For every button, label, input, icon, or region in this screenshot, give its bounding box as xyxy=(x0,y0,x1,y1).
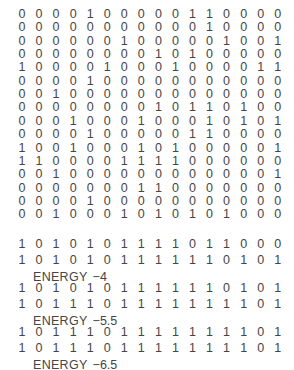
binary-digit: 0 xyxy=(135,75,147,88)
binary-digit: 0 xyxy=(238,182,250,195)
binary-digit: 1 xyxy=(204,128,216,141)
binary-digit: 1 xyxy=(16,342,28,355)
binary-digit: 0 xyxy=(204,155,216,168)
binary-digit: 0 xyxy=(16,75,28,88)
binary-digit: 0 xyxy=(169,168,181,181)
binary-digit: 0 xyxy=(101,155,113,168)
binary-digit: 0 xyxy=(16,182,28,195)
binary-digit: 1 xyxy=(152,182,164,195)
binary-digit: 0 xyxy=(33,61,45,74)
binary-digit: 0 xyxy=(33,195,45,208)
binary-digit: 0 xyxy=(255,75,267,88)
binary-digit: 0 xyxy=(33,8,45,21)
sequence-row-bottom: 1010101111110101 xyxy=(0,254,294,267)
binary-digit: 0 xyxy=(221,75,233,88)
binary-digit: 0 xyxy=(33,342,45,355)
binary-digit: 0 xyxy=(33,142,45,155)
binary-digit: 0 xyxy=(255,142,267,155)
binary-digit: 0 xyxy=(238,61,250,74)
binary-digit: 0 xyxy=(135,128,147,141)
matrix-row: 0000001000001001 xyxy=(0,35,294,48)
energy-group-3: 10111011111111011011101111111101ENERGY−6… xyxy=(0,326,294,370)
binary-digit: 0 xyxy=(255,101,267,114)
binary-digit: 0 xyxy=(255,168,267,181)
binary-digit: 1 xyxy=(84,195,96,208)
binary-digit: 1 xyxy=(187,208,199,221)
binary-digit: 0 xyxy=(33,326,45,339)
energy-group-1: 10101011110110001010101111110101ENERGY−4 xyxy=(0,238,294,282)
binary-digit: 0 xyxy=(118,61,130,74)
binary-digit: 0 xyxy=(221,88,233,101)
binary-digit: 1 xyxy=(101,61,113,74)
binary-digit: 0 xyxy=(238,35,250,48)
binary-digit: 0 xyxy=(67,282,79,295)
energy-word: ENERGY xyxy=(33,358,88,370)
binary-digit: 0 xyxy=(67,128,79,141)
binary-digit: 0 xyxy=(255,208,267,221)
binary-digit: 0 xyxy=(187,182,199,195)
binary-digit: 1 xyxy=(152,208,164,221)
binary-digit: 0 xyxy=(152,115,164,128)
binary-digit: 0 xyxy=(84,208,96,221)
binary-digit: 0 xyxy=(152,88,164,101)
binary-digit: 0 xyxy=(169,128,181,141)
binary-digit: 0 xyxy=(255,88,267,101)
energy-label: ENERGY−6.5 xyxy=(33,358,117,370)
binary-digit: 0 xyxy=(33,101,45,114)
binary-digit: 0 xyxy=(33,168,45,181)
binary-digit: 1 xyxy=(67,342,79,355)
binary-digit: 0 xyxy=(84,142,96,155)
binary-digit: 0 xyxy=(272,155,284,168)
binary-digit: 0 xyxy=(204,75,216,88)
binary-digit: 1 xyxy=(16,298,28,311)
binary-digit: 0 xyxy=(50,115,62,128)
binary-digit: 1 xyxy=(84,282,96,295)
binary-digit: 0 xyxy=(16,195,28,208)
binary-digit: 0 xyxy=(101,326,113,339)
binary-digit: 1 xyxy=(84,342,96,355)
binary-digit: 0 xyxy=(67,21,79,34)
binary-digit: 0 xyxy=(238,88,250,101)
binary-digit: 1 xyxy=(272,282,284,295)
binary-digit: 1 xyxy=(67,115,79,128)
binary-digit: 0 xyxy=(118,142,130,155)
binary-digit: 1 xyxy=(221,326,233,339)
binary-digit: 0 xyxy=(101,298,113,311)
binary-digit: 1 xyxy=(152,326,164,339)
binary-digit: 0 xyxy=(33,182,45,195)
binary-digit: 0 xyxy=(152,128,164,141)
binary-digit: 0 xyxy=(33,48,45,61)
binary-digit: 1 xyxy=(118,35,130,48)
binary-digit: 0 xyxy=(221,128,233,141)
matrix-row: 0000000110000000 xyxy=(0,182,294,195)
binary-digit: 0 xyxy=(118,21,130,34)
binary-digit: 0 xyxy=(169,101,181,114)
matrix-row: 0000000000010000 xyxy=(0,21,294,34)
binary-digit: 1 xyxy=(84,128,96,141)
binary-digit: 1 xyxy=(238,101,250,114)
binary-digit: 1 xyxy=(204,342,216,355)
binary-digit: 1 xyxy=(272,142,284,155)
binary-digit: 0 xyxy=(33,115,45,128)
binary-digit: 1 xyxy=(238,115,250,128)
binary-digit: 0 xyxy=(272,88,284,101)
matrix-row: 0000100000000000 xyxy=(0,195,294,208)
binary-digit: 1 xyxy=(169,155,181,168)
binary-digit: 0 xyxy=(204,182,216,195)
binary-digit: 0 xyxy=(255,21,267,34)
binary-digit: 1 xyxy=(272,115,284,128)
binary-digit: 0 xyxy=(67,182,79,195)
binary-digit: 0 xyxy=(255,326,267,339)
binary-digit: 1 xyxy=(187,298,199,311)
binary-digit: 1 xyxy=(118,254,130,267)
binary-digit: 0 xyxy=(101,182,113,195)
binary-digit: 1 xyxy=(272,35,284,48)
binary-digit: 0 xyxy=(238,155,250,168)
binary-digit: 0 xyxy=(135,168,147,181)
binary-digit: 1 xyxy=(135,298,147,311)
binary-digit: 0 xyxy=(118,8,130,21)
binary-digit: 0 xyxy=(255,8,267,21)
binary-digit: 1 xyxy=(118,238,130,251)
binary-digit: 1 xyxy=(67,298,79,311)
binary-digit: 0 xyxy=(67,168,79,181)
